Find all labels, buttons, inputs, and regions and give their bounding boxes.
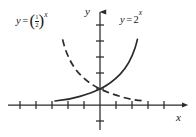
curve-label-one-half-to-the-x: y=(12)x [16,10,48,29]
right-label-exponent: x [139,8,142,17]
x-axis-label: x [176,112,181,123]
curve-one-half-to-the-x [63,39,145,101]
left-label-equals: = [21,15,30,26]
y-axis-label: y [85,6,90,17]
x-axis-group [8,101,182,109]
left-label-variable: y [16,15,21,26]
y-axis-group [96,12,104,130]
right-label-variable: y [120,14,125,25]
exponential-functions-figure: y x y=(12)x y=2x [0,0,196,137]
left-label-exponent: x [44,10,47,19]
curve-2-to-the-x [55,39,137,101]
curve-label-2-to-the-x: y=2x [120,12,142,25]
right-label-equals: = [125,14,134,25]
curve-exponential-growth [55,86,100,100]
